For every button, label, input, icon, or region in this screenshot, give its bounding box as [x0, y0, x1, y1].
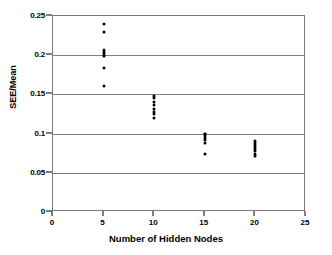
y-tick-label-2: 0.1 [34, 128, 45, 137]
x-tick-mark-1 [102, 211, 103, 216]
x-tick-mark-5 [305, 211, 306, 216]
x-tick-label-4: 20 [250, 218, 259, 227]
data-point [153, 96, 156, 99]
data-point [203, 152, 206, 155]
x-tick-mark-2 [153, 211, 154, 216]
data-point [102, 66, 105, 69]
y-tick-mark-4 [46, 54, 52, 55]
data-point [102, 22, 105, 25]
y-axis-title: SEE/Mean [8, 47, 18, 127]
data-point [203, 141, 206, 144]
gridline-y-3 [53, 94, 304, 95]
y-tick-mark-3 [46, 93, 52, 94]
x-tick-label-1: 5 [100, 218, 104, 227]
x-axis-title: Number of Hidden Nodes [0, 233, 332, 244]
y-tick-label-4: 0.2 [34, 50, 45, 59]
x-tick-label-3: 15 [199, 218, 208, 227]
y-tick-label-1: 0.05 [30, 167, 45, 176]
y-tick-mark-2 [46, 132, 52, 133]
y-tick-label-3: 0.15 [30, 89, 45, 98]
data-point [153, 116, 156, 119]
gridline-y-4 [53, 55, 304, 56]
data-point [102, 31, 105, 34]
y-tick-mark-5 [46, 15, 52, 16]
x-tick-mark-3 [203, 211, 204, 216]
x-tick-label-2: 10 [149, 218, 158, 227]
x-tick-mark-0 [52, 211, 53, 216]
data-point [254, 154, 257, 157]
gridline-y-2 [53, 134, 304, 135]
x-tick-label-0: 0 [50, 218, 54, 227]
y-tick-mark-0 [46, 211, 52, 212]
scatter-chart: 00.050.10.150.20.25 SEE/Mean 0510152025 … [0, 0, 332, 255]
y-axis-labels: 00.050.10.150.20.25 [0, 0, 45, 255]
plot-area [52, 15, 305, 211]
x-tick-label-5: 25 [301, 218, 310, 227]
data-point [153, 104, 156, 107]
data-point [102, 85, 105, 88]
data-point [153, 113, 156, 116]
x-tick-mark-4 [254, 211, 255, 216]
y-tick-mark-1 [46, 171, 52, 172]
data-point [102, 54, 105, 57]
gridline-y-1 [53, 173, 304, 174]
y-tick-label-0: 0 [41, 207, 45, 216]
y-tick-label-5: 0.25 [30, 11, 45, 20]
